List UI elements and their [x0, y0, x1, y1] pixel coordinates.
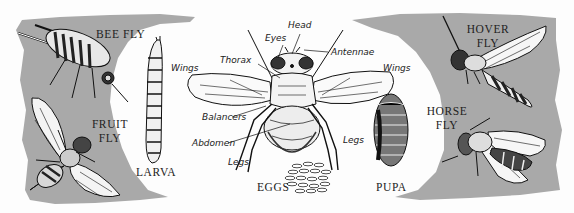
label-hover-fly-line1: HOVER	[466, 24, 510, 36]
label-balancers: Balancers	[202, 113, 246, 122]
label-hover-fly: HOVER FLY	[466, 24, 510, 49]
label-wings-right: Wings	[383, 64, 411, 73]
label-pupa: PUPA	[376, 182, 407, 194]
label-eggs: EGGS	[257, 182, 289, 194]
label-horse-fly: HORSE FLY	[425, 106, 469, 131]
pupa-drawing	[374, 94, 408, 166]
label-hover-fly-line2: FLY	[466, 38, 510, 50]
fly-illustration: BEE FLY FRUIT FLY HOVER FLY HORSE FLY LA…	[0, 0, 574, 213]
label-horse-fly-line1: HORSE	[425, 106, 469, 118]
label-wings-left: Wings	[171, 64, 199, 73]
label-head: Head	[288, 21, 312, 30]
eggs-drawing	[285, 162, 331, 193]
label-bee-fly: BEE FLY	[96, 29, 145, 41]
label-abdomen: Abdomen	[192, 139, 235, 148]
label-eyes: Eyes	[265, 34, 286, 43]
label-larva: LARVA	[136, 167, 176, 179]
larva-drawing	[146, 36, 162, 163]
label-fruit-fly-line1: FRUIT	[90, 119, 130, 131]
label-legs-left: Legs	[228, 158, 249, 167]
label-antennae: Antennae	[331, 48, 374, 57]
label-fruit-fly: FRUIT FLY	[90, 119, 130, 144]
label-legs-right: Legs	[343, 136, 364, 145]
label-thorax: Thorax	[220, 56, 251, 65]
label-horse-fly-line2: FLY	[425, 120, 469, 132]
label-fruit-fly-line2: FLY	[90, 133, 130, 145]
